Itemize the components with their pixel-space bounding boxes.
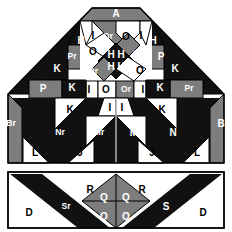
quilt-pattern-figure: AHIOrOIHPrOHHOrPKOrHHOKPKIOOrIKPrKIIKBrN… (0, 0, 232, 232)
quilt-diagram-canvas: AHIOrOIHPrOHHOrPKOrHHOKPKIOOrIKPrKIIKBrN… (0, 0, 232, 232)
piece-Pr-right (170, 80, 203, 98)
piece-I-mid-left (86, 81, 98, 98)
piece-K-mid-left (62, 80, 86, 98)
piece-O-bottom (98, 81, 116, 98)
piece-P-left (29, 80, 62, 98)
piece-I-mid-right (134, 81, 146, 98)
piece-K-mid-right (146, 80, 170, 98)
piece-Or-bottom (116, 81, 134, 98)
lower-border-block (8, 172, 224, 228)
